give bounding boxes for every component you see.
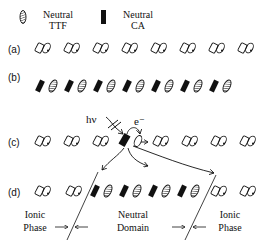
legend-ca-icon [101,10,106,24]
row-b-molecules [35,79,233,94]
electron-transfer-arrow-icon [127,128,140,134]
photon-arrow-icon [106,117,123,134]
row-d-molecules [35,184,257,199]
excited-ttf-molecule [133,134,144,147]
domain-spread-arrows [102,146,214,173]
legend-ttf-icon [20,11,26,24]
domain-wall-right [185,175,216,240]
diagram-canvas [0,0,271,243]
row-a-molecules [35,42,255,54]
row-c-molecules [35,133,257,148]
domain-wall-left [67,172,98,240]
excited-ca-molecule [118,133,130,147]
